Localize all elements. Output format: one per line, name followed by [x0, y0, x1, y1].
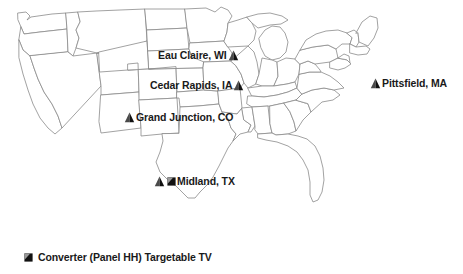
converter-marker-icon — [24, 253, 33, 262]
us-states-map — [0, 0, 463, 274]
map-marker-eau-claire-wi[interactable]: Eau Claire, WI — [158, 50, 239, 61]
state-outlines — [18, 7, 378, 202]
map-label-pittsfield-ma: Pittsfield, MA — [382, 78, 447, 89]
map-marker-midland-tx[interactable]: Midland, TX — [154, 176, 235, 187]
map-legend-label: Converter (Panel HH) Targetable TV — [38, 251, 212, 263]
triangle-marker-icon — [233, 80, 244, 91]
triangle-marker-icon — [370, 78, 381, 89]
map-label-cedar-rapids-ia: Cedar Rapids, IA — [150, 80, 232, 91]
map-marker-cedar-rapids-ia[interactable]: Cedar Rapids, IA — [150, 80, 244, 91]
triangle-marker-icon — [124, 112, 135, 123]
map-legend: Converter (Panel HH) Targetable TV — [24, 251, 212, 263]
map-marker-pittsfield-ma[interactable]: Pittsfield, MA — [370, 78, 447, 89]
map-label-midland-tx: Midland, TX — [177, 176, 235, 187]
map-label-eau-claire-wi: Eau Claire, WI — [158, 50, 227, 61]
triangle-marker-icon — [154, 176, 165, 187]
map-label-grand-junction-co: Grand Junction, CO — [136, 112, 233, 123]
us-map-figure: Eau Claire, WI Cedar Rapids, IA Grand Ju… — [0, 0, 463, 274]
map-marker-grand-junction-co[interactable]: Grand Junction, CO — [124, 112, 233, 123]
triangle-marker-icon — [228, 50, 239, 61]
converter-marker-icon — [167, 177, 176, 186]
